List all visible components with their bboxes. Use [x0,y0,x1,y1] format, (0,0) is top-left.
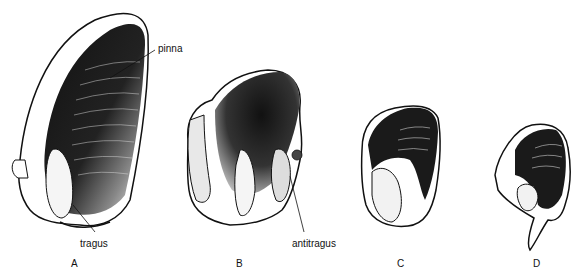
ear-a [12,13,148,227]
ear-c [362,106,441,226]
antitragus-leader-line [290,176,304,232]
ear-d [495,124,570,250]
ear-illustrations [0,0,583,277]
tragus-label: tragus [80,238,108,249]
panel-label-d: D [533,258,540,269]
panel-label-a: A [71,258,78,269]
panel-label-b: B [236,258,243,269]
antitragus-label: antitragus [292,238,336,249]
ear-b [188,70,303,225]
pinna-label: pinna [158,43,182,54]
panel-label-c: C [397,258,404,269]
